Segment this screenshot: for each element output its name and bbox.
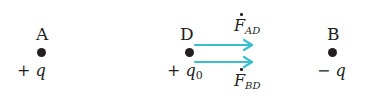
force-symbol: F (234, 71, 245, 90)
electric-force-diagram: A + q D + q0 B − q FAD FBD (0, 0, 365, 110)
force-ad-label: FAD (234, 18, 260, 36)
force-subscript: BD (245, 80, 260, 91)
force-arrows (0, 0, 365, 110)
force-subscript: AD (245, 25, 260, 36)
force-bd-label: FBD (234, 73, 260, 91)
force-symbol: F (234, 16, 245, 35)
